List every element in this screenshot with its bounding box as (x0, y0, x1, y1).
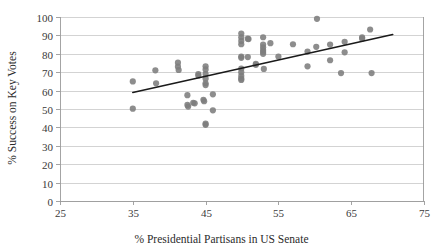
y-tick-label: 50 (42, 104, 54, 116)
x-axis-label: % Presidential Partisans in US Senate (134, 233, 308, 245)
chart-canvas: 253545556575 0102030405060708090100 % Pr… (0, 0, 443, 250)
data-point (153, 80, 159, 86)
data-point (184, 92, 190, 98)
y-axis-ticks: 0102030405060708090100 (37, 12, 61, 208)
data-point (203, 82, 209, 88)
data-point (185, 104, 191, 110)
data-point (368, 70, 374, 76)
x-tick-label: 25 (55, 207, 67, 219)
data-point (238, 55, 244, 61)
data-point (152, 67, 158, 73)
x-tick-label: 75 (419, 207, 431, 219)
y-tick-label: 100 (37, 12, 54, 24)
x-tick-label: 35 (128, 207, 140, 219)
y-tick-label: 90 (42, 30, 54, 42)
y-tick-label: 80 (42, 49, 54, 61)
data-point (260, 51, 266, 57)
data-point (245, 36, 251, 42)
data-point (192, 100, 198, 106)
data-point (342, 49, 348, 55)
data-point (367, 26, 373, 32)
y-tick-label: 60 (42, 86, 54, 98)
data-point (238, 77, 244, 83)
data-point (210, 91, 216, 97)
data-point (130, 78, 136, 84)
data-point (201, 98, 207, 104)
data-points (130, 16, 375, 128)
data-point (314, 16, 320, 22)
data-point (304, 63, 310, 69)
data-point (327, 42, 333, 48)
data-point (327, 57, 333, 63)
x-tick-label: 45 (201, 207, 213, 219)
data-point (338, 70, 344, 76)
data-point (238, 41, 244, 47)
data-point (290, 41, 296, 47)
data-point (245, 54, 251, 60)
y-tick-label: 0 (48, 196, 54, 208)
data-point (130, 106, 136, 112)
data-point (260, 34, 266, 40)
x-tick-label: 55 (273, 207, 285, 219)
y-tick-label: 10 (42, 178, 54, 190)
y-tick-label: 40 (42, 122, 54, 134)
scatter-chart: 253545556575 0102030405060708090100 % Pr… (0, 0, 443, 250)
x-axis-ticks: 253545556575 (55, 201, 431, 219)
data-point (203, 122, 209, 128)
data-point (267, 40, 273, 46)
y-tick-label: 20 (42, 159, 54, 171)
data-point (261, 66, 267, 72)
data-point (176, 67, 182, 73)
y-axis-label: % Success on Key Votes (6, 51, 19, 165)
data-point (210, 107, 216, 113)
data-point (313, 44, 319, 50)
y-tick-label: 30 (42, 141, 54, 153)
y-tick-label: 70 (42, 67, 54, 79)
x-tick-label: 65 (346, 207, 358, 219)
